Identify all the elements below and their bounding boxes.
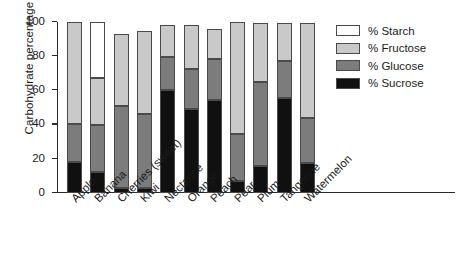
y-axis-tick-label: 0	[39, 186, 45, 198]
legend-swatch	[336, 78, 360, 89]
stacked-bar	[114, 22, 129, 193]
bar-segment-glucose	[277, 61, 292, 98]
bar-segment-glucose	[90, 125, 105, 172]
plot-area: 020406080100	[57, 22, 314, 193]
legend-label: % Glucose	[368, 60, 424, 72]
stacked-bar	[160, 22, 175, 193]
y-axis-tick-label: 100	[26, 15, 45, 27]
legend-swatch	[336, 60, 360, 71]
bar-segment-starch	[90, 22, 105, 78]
bar-segment-fructose	[67, 22, 82, 124]
y-axis-tick-label: 60	[32, 83, 45, 95]
legend-item: % Glucose	[336, 57, 461, 75]
chart-legend: % Starch% Fructose% Glucose% Sucrose	[336, 22, 461, 92]
bar-segment-fructose	[137, 31, 152, 114]
bar-segment-fructose	[253, 23, 268, 82]
y-axis-tick: 80	[52, 55, 57, 56]
y-axis-tick: 20	[52, 158, 57, 159]
bar-segment-glucose	[67, 124, 82, 162]
bar-segment-fructose	[184, 25, 199, 69]
stacked-bar	[253, 22, 268, 193]
bar-segment-fructose	[230, 22, 245, 134]
y-axis-tick-label: 80	[32, 49, 45, 61]
bar-segment-fructose	[90, 78, 105, 125]
bar-segment-sucrose	[277, 98, 292, 193]
bar-segment-glucose	[184, 69, 199, 109]
y-axis-tick: 100	[52, 21, 57, 22]
bar-segment-fructose	[114, 34, 129, 106]
x-axis-tick-labels: AppleBananaCherries (sweet)KiwiNectarine…	[57, 196, 357, 279]
y-axis-tick: 60	[52, 89, 57, 90]
stacked-bar	[277, 22, 292, 193]
stacked-bar	[207, 22, 222, 193]
legend-item: % Fructose	[336, 40, 461, 58]
bar-segment-fructose	[207, 29, 222, 59]
y-axis-tick-label: 20	[32, 152, 45, 164]
bar-segment-glucose	[207, 59, 222, 100]
legend-label: % Sucrose	[368, 77, 424, 89]
bar-segment-fructose	[300, 23, 315, 118]
legend-label: % Starch	[368, 25, 415, 37]
bar-segment-glucose	[253, 82, 268, 166]
y-axis-tick: 0	[52, 192, 57, 193]
legend-swatch	[336, 25, 360, 36]
y-axis-line	[57, 22, 58, 193]
bar-segment-glucose	[300, 118, 315, 163]
y-axis-tick-label: 40	[32, 117, 45, 129]
legend-swatch	[336, 43, 360, 54]
stacked-bar	[230, 22, 245, 193]
stacked-bar	[67, 22, 82, 193]
bar-segment-glucose	[160, 57, 175, 89]
legend-label: % Fructose	[368, 42, 426, 54]
bar-segment-fructose	[160, 25, 175, 57]
legend-item: % Starch	[336, 22, 461, 40]
bar-segment-fructose	[277, 23, 292, 61]
y-axis-tick: 40	[52, 123, 57, 124]
legend-item: % Sucrose	[336, 75, 461, 93]
stacked-bar	[90, 22, 105, 193]
carbohydrate-percentage-chart: Carbohydrate percentage 020406080100 App…	[0, 0, 465, 279]
